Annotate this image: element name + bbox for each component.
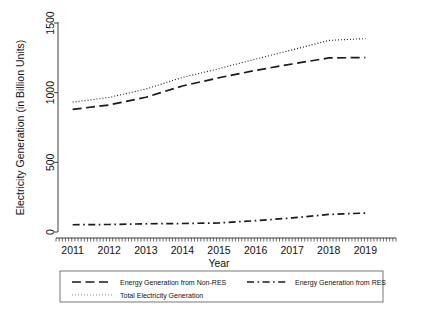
x-tick-label: 2015 (207, 244, 231, 256)
y-axis: 050010001500 (44, 11, 58, 235)
legend-label-1: Energy Generation from RES (295, 279, 386, 287)
y-tick-label: 0 (44, 229, 56, 235)
x-tick-label: 2013 (134, 244, 158, 256)
legend-label-0: Energy Generation from Non-RES (120, 279, 227, 287)
series-line-2 (73, 39, 366, 103)
legend-border (60, 271, 383, 302)
series-line-1 (73, 213, 366, 225)
x-tick-label: 2012 (98, 244, 122, 256)
series-line-0 (73, 58, 366, 110)
x-axis-title: Year (208, 257, 230, 269)
legend-label-2: Total Electricity Generation (120, 292, 203, 300)
x-axis: 201120122013201420152016201720182019 (56, 238, 396, 256)
series-group (73, 39, 366, 225)
chart-figure: 050010001500 201120122013201420152016201… (0, 0, 423, 321)
x-tick-label: 2017 (281, 244, 305, 256)
y-tick-label: 500 (44, 153, 56, 171)
y-axis-title: Electricity Generation (in Billion Units… (14, 40, 26, 216)
x-tick-label: 2016 (244, 244, 268, 256)
x-tick-label: 2011 (61, 244, 84, 256)
line-chart: 050010001500 201120122013201420152016201… (0, 0, 423, 321)
x-tick-label: 2018 (317, 244, 341, 256)
y-tick-label: 1000 (44, 81, 56, 105)
x-tick-label: 2014 (171, 244, 195, 256)
y-tick-label: 1500 (44, 11, 56, 35)
x-tick-label: 2019 (354, 244, 378, 256)
chart-legend: Energy Generation from Non-RESEnergy Gen… (60, 271, 386, 302)
